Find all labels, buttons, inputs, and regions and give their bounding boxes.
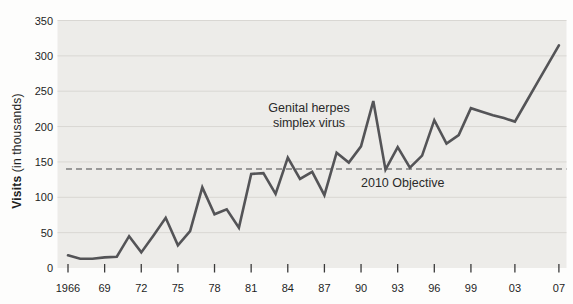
x-tick-label: 99 <box>465 282 477 294</box>
x-tick-label: 1966 <box>56 282 80 294</box>
x-tick-label: 72 <box>135 282 147 294</box>
y-axis-title: Visits (in thousands) <box>10 1 24 301</box>
y-tick-label: 0 <box>47 262 53 274</box>
x-tick-label: 93 <box>392 282 404 294</box>
y-tick-label: 250 <box>35 85 53 97</box>
x-tick-label: 81 <box>245 282 257 294</box>
x-tick-label: 96 <box>428 282 440 294</box>
plot-area <box>58 21 567 269</box>
series-annotation: Genital herpes simplex virus <box>248 101 370 131</box>
x-tick-label: 69 <box>99 282 111 294</box>
x-tick-label: 03 <box>509 282 521 294</box>
y-tick-label: 350 <box>35 15 53 27</box>
x-tick-label: 84 <box>282 282 294 294</box>
x-tick-label: 07 <box>553 282 565 294</box>
chart-panel: 0501001502002503003501966697275788184879… <box>0 0 573 304</box>
x-tick-label: 87 <box>318 282 330 294</box>
series-annotation-line2: simplex virus <box>248 116 370 131</box>
line-chart: 0501001502002503003501966697275788184879… <box>0 0 573 304</box>
y-axis-title-bold: Visits <box>10 176 24 209</box>
objective-label: 2010 Objective <box>361 176 444 190</box>
y-tick-label: 50 <box>41 227 53 239</box>
x-tick-label: 90 <box>355 282 367 294</box>
y-tick-label: 100 <box>35 191 53 203</box>
y-axis-title-units: (in thousands) <box>10 93 24 175</box>
y-tick-label: 200 <box>35 121 53 133</box>
series-annotation-line1: Genital herpes <box>248 101 370 116</box>
x-tick-label: 75 <box>172 282 184 294</box>
x-tick-label: 78 <box>208 282 220 294</box>
y-tick-label: 300 <box>35 50 53 62</box>
y-tick-label: 150 <box>35 156 53 168</box>
